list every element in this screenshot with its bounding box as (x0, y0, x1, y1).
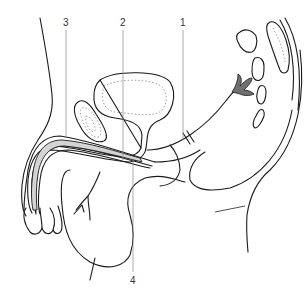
callout-label-2: 2 (120, 18, 126, 28)
anatomy-diagram: 1 2 3 4 (0, 0, 307, 296)
spine-sacrum (237, 18, 300, 128)
callout-label-3: 3 (63, 18, 69, 28)
callout-label-4: 4 (130, 276, 136, 286)
pubic-symphysis (74, 101, 106, 142)
bladder (94, 73, 174, 148)
buttock-outline (155, 50, 302, 252)
scrotum (61, 170, 185, 280)
vas-deferens (147, 74, 254, 150)
callout-label-1: 1 (180, 18, 186, 28)
anatomy-drawing (0, 0, 307, 296)
